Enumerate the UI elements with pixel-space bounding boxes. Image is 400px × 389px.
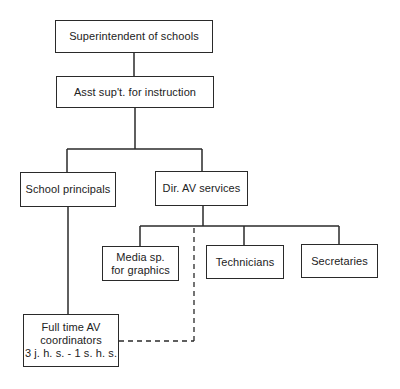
node-dir-av-services: Dir. AV services: [155, 171, 248, 206]
node-technicians: Technicians: [206, 245, 284, 279]
node-label: Dir. AV services: [163, 182, 241, 195]
node-label: Technicians: [216, 256, 275, 269]
node-school-principals: School principals: [20, 172, 116, 207]
node-superintendent: Superintendent of schools: [55, 20, 213, 53]
node-label: Media sp. for graphics: [111, 251, 170, 277]
node-av-coordinators: Full time AV coordinators 3 j. h. s. - 1…: [23, 314, 119, 367]
node-label: Secretaries: [311, 255, 368, 268]
node-media-specialist: Media sp. for graphics: [102, 246, 179, 281]
node-label: Superintendent of schools: [69, 30, 199, 43]
node-label: Asst sup't. for instruction: [74, 86, 196, 99]
node-secretaries: Secretaries: [301, 244, 378, 278]
node-label: Full time AV coordinators 3 j. h. s. - 1…: [25, 321, 117, 360]
node-label: School principals: [26, 183, 111, 196]
node-asst-supt: Asst sup't. for instruction: [56, 76, 214, 108]
